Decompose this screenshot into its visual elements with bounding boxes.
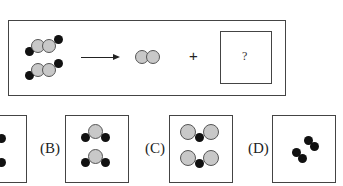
- black-atom: [101, 133, 110, 142]
- equation-box: + ?: [8, 20, 286, 96]
- option-a-box[interactable]: [0, 115, 27, 183]
- option-d-box[interactable]: [272, 115, 336, 183]
- arrow-head: [113, 54, 120, 60]
- gray-atom: [203, 124, 219, 140]
- gray-atom: [180, 150, 196, 166]
- black-atom: [298, 154, 307, 163]
- unknown-box: ?: [220, 31, 272, 84]
- gray-atom: [146, 50, 160, 64]
- arrow: [81, 57, 115, 58]
- black-atom: [54, 59, 63, 68]
- plus-sign: +: [189, 47, 198, 64]
- option-b-box[interactable]: [65, 115, 129, 183]
- option-d-label: (D): [248, 140, 269, 157]
- option-c-label: (C): [145, 140, 165, 157]
- gray-atom: [203, 150, 219, 166]
- black-atom: [310, 142, 319, 151]
- black-atom: [0, 158, 6, 167]
- gray-atom: [180, 124, 196, 140]
- option-b-label: (B): [40, 140, 60, 157]
- black-atom: [0, 134, 6, 143]
- black-atom: [54, 35, 63, 44]
- black-atom: [101, 158, 110, 167]
- option-c-box[interactable]: [169, 115, 233, 183]
- question-mark: ?: [242, 49, 247, 64]
